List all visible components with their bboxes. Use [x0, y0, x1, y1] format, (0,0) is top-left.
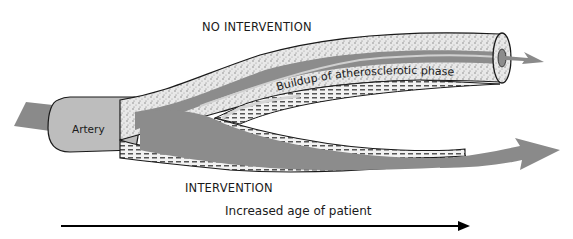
no-intervention-label: NO INTERVENTION	[202, 20, 312, 34]
intervention-label: INTERVENTION	[185, 181, 273, 195]
age-timeline-arrow	[61, 221, 470, 231]
artery-label: Artery	[72, 123, 105, 135]
lower-branch	[120, 110, 560, 172]
artery-bifurcation-diagram: Buildup of atherosclerotic phase NO INTE…	[0, 0, 573, 239]
age-axis-label: Increased age of patient	[225, 204, 371, 218]
